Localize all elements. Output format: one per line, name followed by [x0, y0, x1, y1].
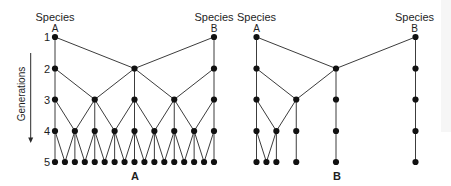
lineage-edge	[75, 131, 85, 162]
lineage-edge	[266, 131, 276, 162]
lineage-edge	[135, 131, 145, 162]
lineage-edge	[257, 100, 277, 132]
lineage-edge	[154, 100, 174, 132]
individual-node	[52, 65, 58, 71]
individual-node	[181, 159, 187, 165]
individual-node	[131, 128, 137, 134]
individual-node	[52, 128, 58, 134]
lineage-edge	[75, 100, 95, 132]
individual-node	[293, 128, 299, 134]
down-arrow-icon	[28, 138, 33, 144]
diagram-caption: B	[333, 170, 341, 182]
individual-node	[171, 96, 177, 102]
individual-node	[273, 159, 279, 165]
individual-node	[333, 65, 339, 71]
individual-node	[412, 65, 418, 71]
species-label-letter: B	[211, 23, 218, 34]
lineage-edge	[174, 100, 194, 132]
lineage-edge	[194, 131, 204, 162]
individual-node	[412, 128, 418, 134]
lineage-edge	[257, 69, 297, 100]
individual-node	[253, 96, 259, 102]
individual-node	[131, 96, 137, 102]
individual-node	[92, 159, 98, 165]
species-label-name: Species	[237, 11, 277, 23]
individual-node	[92, 128, 98, 134]
lineage-edge	[95, 100, 115, 132]
lineage-edge	[125, 131, 135, 162]
individual-node	[412, 159, 418, 165]
individual-node	[333, 128, 339, 134]
lineage-edge	[95, 69, 135, 100]
lineage-edge	[135, 100, 155, 132]
species-label-letter: A	[253, 23, 260, 34]
individual-node	[151, 128, 157, 134]
individual-node	[211, 159, 217, 165]
generation-tick-3: 3	[44, 94, 50, 106]
generation-tick-5: 5	[44, 156, 50, 168]
lineage-edge	[85, 131, 95, 162]
individual-node	[102, 159, 108, 165]
lineage-edge	[257, 131, 267, 162]
individual-node	[141, 159, 147, 165]
individual-node	[52, 159, 58, 165]
individual-node	[253, 159, 259, 165]
individual-node	[131, 65, 137, 71]
individual-node	[211, 65, 217, 71]
species-label-name: Species	[35, 11, 75, 23]
lineage-edge	[144, 131, 154, 162]
individual-node	[52, 34, 58, 40]
individual-node	[72, 128, 78, 134]
lineage-edge	[65, 131, 75, 162]
lineage-edge	[55, 37, 135, 69]
lineage-edge	[105, 131, 115, 162]
generation-tick-1: 1	[44, 31, 50, 43]
species-label-letter: A	[52, 23, 59, 34]
lineage-edge	[95, 131, 105, 162]
individual-node	[62, 159, 68, 165]
individual-node	[171, 128, 177, 134]
individual-node	[72, 159, 78, 165]
lineage-edge	[204, 131, 214, 162]
individual-node	[211, 34, 217, 40]
lineage-edge	[174, 131, 184, 162]
scan-edge-shading	[441, 0, 451, 132]
lineage-edge	[257, 37, 337, 69]
individual-node	[201, 159, 207, 165]
pedigree-figure: Generations 1 2 3 4 5 Species A Species …	[0, 0, 451, 186]
individual-node	[253, 65, 259, 71]
lineage-edge	[55, 131, 65, 162]
generations-axis-label: Generations	[16, 67, 27, 121]
individual-node	[191, 159, 197, 165]
lineage-edge	[164, 131, 174, 162]
individual-node	[131, 159, 137, 165]
individual-node	[92, 96, 98, 102]
individual-node	[273, 128, 279, 134]
species-label-name: Species	[395, 11, 435, 23]
individual-node	[211, 128, 217, 134]
individual-node	[333, 159, 339, 165]
individual-node	[263, 159, 269, 165]
individual-node	[82, 159, 88, 165]
species-label-name: Species	[194, 11, 234, 23]
individual-node	[253, 128, 259, 134]
individual-node	[253, 34, 259, 40]
individual-node	[161, 159, 167, 165]
individual-node	[333, 96, 339, 102]
individual-node	[112, 159, 118, 165]
individual-node	[412, 96, 418, 102]
lineage-edge	[55, 69, 95, 100]
diagram-b	[253, 34, 418, 165]
lineage-edge	[55, 100, 75, 132]
diagram-caption: A	[131, 170, 139, 182]
lineage-edge	[174, 69, 214, 100]
lineage-edge	[154, 131, 164, 162]
diagram-a	[52, 34, 217, 165]
individual-node	[112, 128, 118, 134]
lineage-edge	[194, 100, 214, 132]
individual-node	[151, 159, 157, 165]
generations-axis: Generations	[16, 53, 33, 143]
individual-node	[171, 159, 177, 165]
individual-node	[211, 96, 217, 102]
individual-node	[293, 96, 299, 102]
